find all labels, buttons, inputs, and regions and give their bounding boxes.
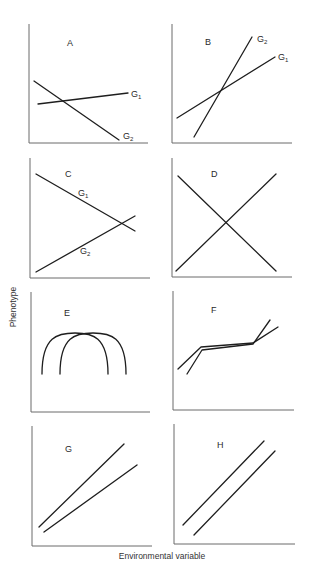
panel-b-g2-line — [194, 37, 252, 137]
panel-g-line-1 — [39, 444, 124, 527]
panel-c-g1-label: G1 — [78, 188, 89, 199]
panel-a-g1-label: G1 — [131, 89, 142, 100]
panel-h: H — [174, 424, 295, 544]
panel-d-label: D — [211, 169, 218, 179]
panel-f-axes — [173, 291, 294, 410]
panel-b-g1-line — [177, 57, 275, 118]
panel-g: G — [32, 426, 152, 546]
panel-h-line-2 — [194, 451, 275, 535]
panel-h-axes — [174, 424, 295, 544]
panel-e-curve-1 — [42, 333, 108, 374]
panel-a-label: A — [67, 38, 73, 48]
panel-d: D — [172, 158, 292, 277]
x-axis-label: Environmental variable — [119, 551, 206, 561]
panel-f: F — [173, 291, 294, 410]
panel-d-line-1 — [178, 176, 276, 271]
panel-e-curve-2 — [60, 333, 126, 374]
y-axis-label: Phenotype — [8, 286, 18, 327]
panel-a-axes — [29, 24, 148, 143]
panel-e-label: E — [64, 308, 70, 318]
panel-a-g2-label: G2 — [123, 131, 134, 142]
panel-b: B G2 G1 — [172, 24, 292, 143]
panel-b-g2-label: G2 — [257, 34, 268, 45]
panel-b-g1-label: G1 — [278, 52, 289, 63]
figure-canvas: A G1 G2 B G2 G1 C G1 G2 D E F — [0, 0, 317, 579]
panel-g-label: G — [65, 444, 72, 454]
panel-c-g2-line — [36, 216, 135, 272]
panel-c: C G1 G2 — [30, 158, 150, 278]
panel-h-line-1 — [183, 441, 264, 525]
panel-c-g1-line — [36, 174, 135, 231]
panel-g-line-2 — [44, 465, 137, 532]
panel-h-label: H — [217, 440, 224, 450]
panel-a: A G1 G2 — [29, 24, 148, 143]
panel-f-line-2 — [187, 320, 270, 374]
panel-b-label: B — [205, 37, 211, 47]
panel-c-label: C — [65, 169, 72, 179]
panel-a-g1-line — [38, 93, 128, 104]
panel-a-g2-line — [34, 81, 119, 140]
panel-c-g2-label: G2 — [80, 246, 91, 257]
panel-e-axes — [31, 292, 150, 412]
panel-f-label: F — [211, 305, 217, 315]
panel-e: E — [31, 292, 150, 412]
panel-f-line-1 — [178, 327, 278, 369]
